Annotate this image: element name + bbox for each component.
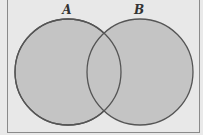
set-b-circle	[87, 19, 193, 125]
set-a-label: A	[61, 3, 71, 17]
venn-diagram: A B	[0, 0, 203, 135]
set-b-label: B	[133, 3, 144, 17]
